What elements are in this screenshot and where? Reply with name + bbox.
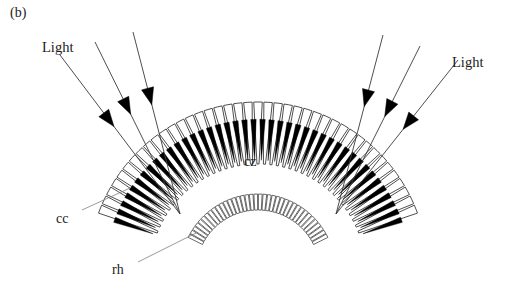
eye-cross-section-diagram — [0, 0, 516, 303]
cone-zone-cells — [99, 102, 418, 234]
rhabdom-layer-segments — [188, 194, 328, 244]
rhabdom-segment — [258, 194, 262, 210]
cone-zone-label: cz — [244, 154, 256, 170]
panel-label: (b) — [10, 5, 26, 21]
ray-arrowhead — [99, 109, 114, 126]
rhabdom-label: rh — [112, 262, 124, 278]
rh-leader-line — [138, 233, 196, 262]
ray-arrowhead — [385, 99, 398, 117]
ray-arrowhead — [363, 89, 375, 107]
light-label-right: Light — [452, 54, 483, 71]
figure-panel: (b) Light Light cz cc rh — [0, 0, 516, 303]
panel-label-text: (b) — [10, 5, 26, 20]
ray-arrowhead — [142, 87, 154, 105]
light-label-left: Light — [42, 39, 73, 56]
corneal-cone-label: cc — [56, 211, 68, 227]
ray-arrowhead — [118, 96, 131, 114]
rhabdom-segment — [254, 194, 258, 210]
ray-arrowhead — [403, 112, 418, 129]
